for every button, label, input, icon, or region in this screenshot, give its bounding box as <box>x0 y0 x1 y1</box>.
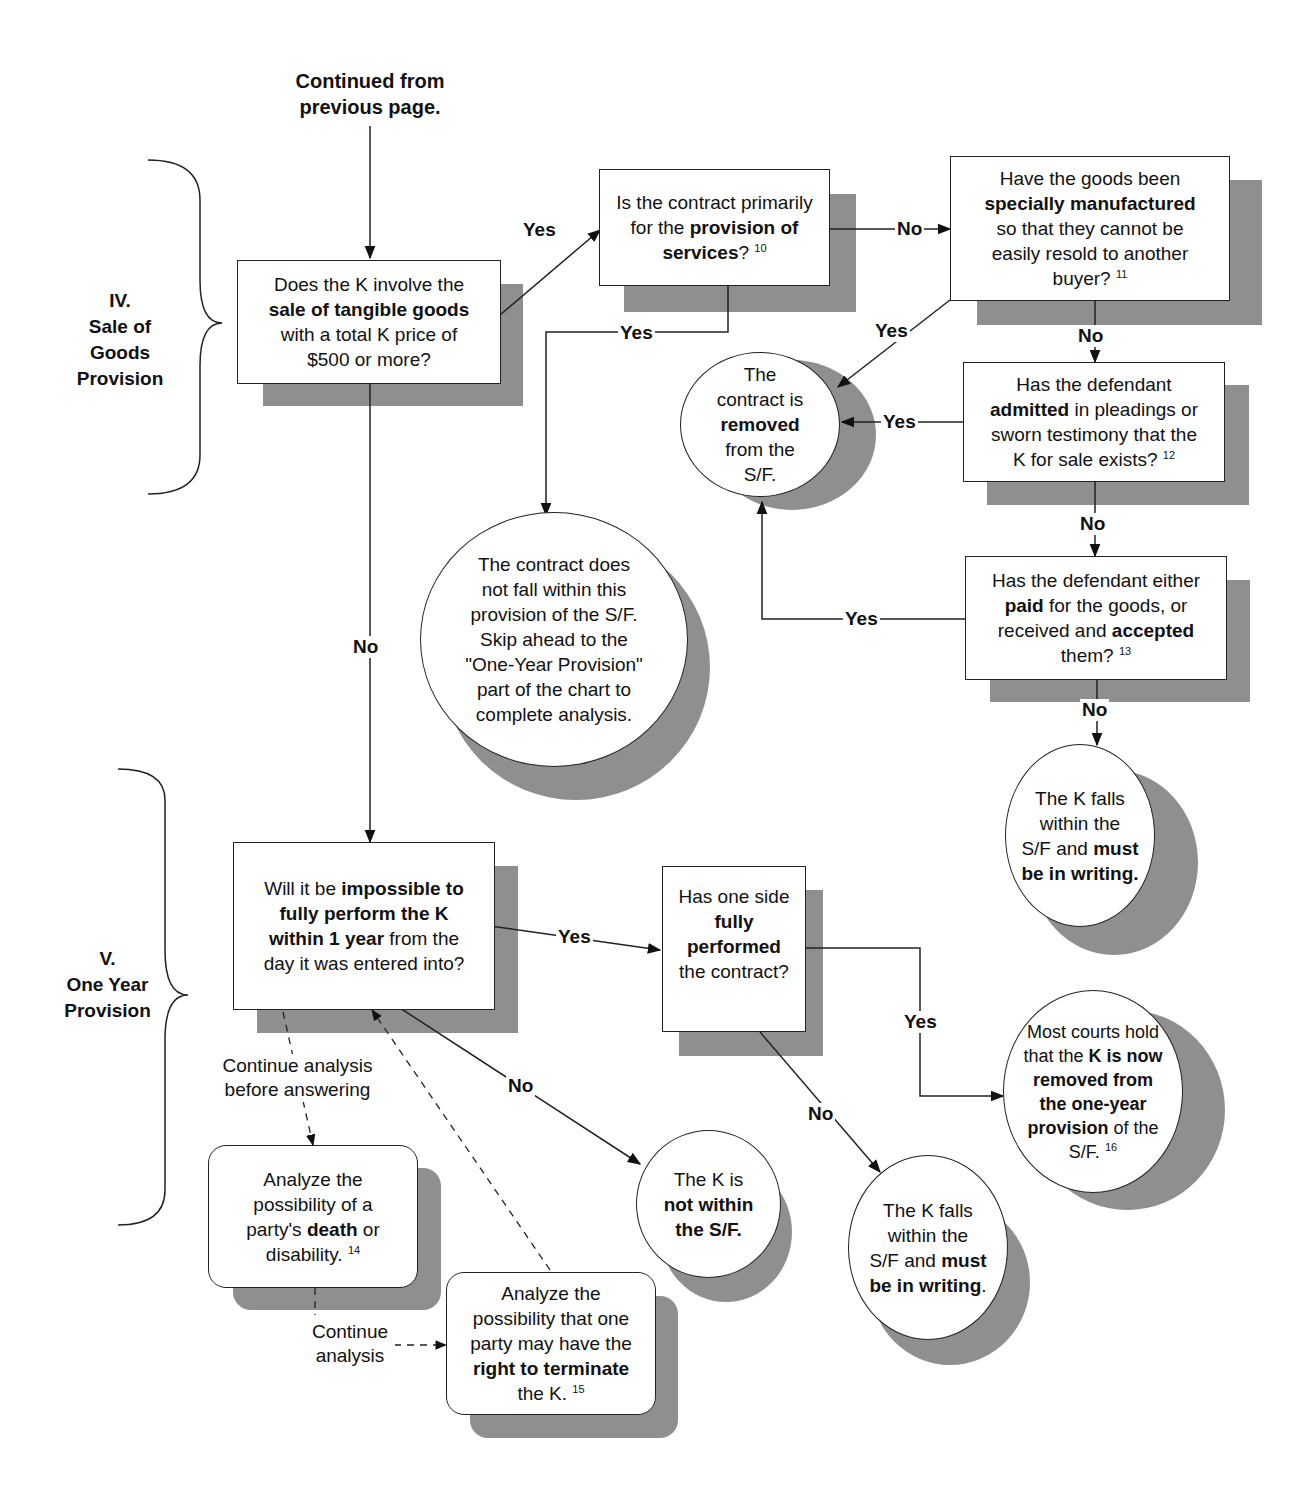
node-provision-of-services-question: Is the contract primarily for the provis… <box>599 169 830 286</box>
node-text: for the goods, or <box>1044 595 1188 616</box>
node-text-bold: fully perform the K <box>280 903 449 924</box>
section-line: One Year <box>40 972 175 998</box>
edge-label-admitted-no: No <box>1078 513 1107 535</box>
footnote-marker: 14 <box>348 1244 360 1256</box>
node-text: The K is <box>674 1169 744 1190</box>
node-text: day it was entered into? <box>264 953 465 974</box>
node-text-bold: paid <box>1005 595 1044 616</box>
node-text: Has the defendant either <box>992 570 1200 591</box>
note-line: Continue analysis <box>210 1054 385 1078</box>
node-text: S/F. <box>744 464 777 485</box>
node-text: received and <box>998 620 1112 641</box>
edge-label-year-no: No <box>506 1075 535 1097</box>
node-text: party may have the <box>470 1333 632 1354</box>
node-text: S/F and <box>869 1250 941 1271</box>
section-v-label: V. One Year Provision <box>40 946 175 1024</box>
edge-label-admitted-yes: Yes <box>881 411 918 433</box>
node-text: S/F and <box>1021 838 1093 859</box>
node-falls-within-sf-goods-outcome: The K falls within the S/F and must be i… <box>1005 744 1155 927</box>
footnote-marker: 12 <box>1163 449 1175 461</box>
node-impossible-within-one-year-question: Will it be impossible to fully perform t… <box>233 842 495 1010</box>
node-text: provision of the S/F. <box>471 604 638 625</box>
node-text-bold: K is now <box>1089 1046 1163 1066</box>
node-text: The K falls <box>883 1200 973 1221</box>
node-text-bold: impossible to <box>341 878 463 899</box>
node-fully-performed-question: Has one side fully performed the contrac… <box>662 866 806 1032</box>
node-specially-manufactured-question: Have the goods been specially manufactur… <box>950 156 1230 301</box>
node-text: of the <box>1108 1118 1158 1138</box>
node-text-bold: the one-year <box>1039 1094 1146 1114</box>
edge-label-goods-yes: Yes <box>521 219 558 241</box>
footnote-marker: 13 <box>1119 645 1131 657</box>
node-text: ? <box>738 242 749 263</box>
node-text: K for sale exists? <box>1013 449 1158 470</box>
node-text: from the <box>384 928 459 949</box>
node-text: within the <box>1040 813 1120 834</box>
node-text: . <box>981 1275 986 1296</box>
node-text-bold: must <box>941 1250 986 1271</box>
node-text: possibility of a <box>253 1194 372 1215</box>
node-text-bold: fully performed <box>687 911 781 957</box>
section-line: Sale of <box>50 314 190 340</box>
section-line: Provision <box>40 998 175 1024</box>
node-text: with a total K price of <box>281 324 457 345</box>
node-text-bold: must <box>1093 838 1138 859</box>
node-text: The K falls <box>1035 788 1125 809</box>
edge-label-year-yes: Yes <box>556 926 593 948</box>
note-continue-analysis-before-answering: Continue analysis before answering <box>210 1054 385 1102</box>
edge-label-performed-no: No <box>806 1103 835 1125</box>
note-line: Continue <box>305 1320 395 1344</box>
node-text: not fall within this <box>482 579 627 600</box>
node-text-bold: admitted <box>990 399 1069 420</box>
edge-label-performed-yes: Yes <box>902 1011 939 1033</box>
continued-line-1: Continued from <box>285 68 455 94</box>
node-text: The <box>744 364 777 385</box>
node-sale-of-goods-question: Does the K involve the sale of tangible … <box>237 260 501 384</box>
footnote-marker: 15 <box>572 1383 584 1395</box>
edge-label-services-yes: Yes <box>618 322 655 344</box>
node-text: the contract? <box>679 961 789 982</box>
node-text: buyer? <box>1053 268 1111 289</box>
node-text-bold: the S/F. <box>675 1219 742 1240</box>
node-text: Analyze the <box>501 1283 600 1304</box>
node-falls-within-sf-year-outcome: The K falls within the S/F and must be i… <box>848 1155 1008 1340</box>
node-text: sworn testimony that the <box>991 424 1197 445</box>
section-line: Provision <box>50 366 190 392</box>
edge-label-paid-yes: Yes <box>843 608 880 630</box>
node-death-or-disability-analysis: Analyze the possibility of a party's dea… <box>208 1145 418 1288</box>
edge-label-manufactured-yes: Yes <box>873 320 910 342</box>
node-text: contract is <box>717 389 804 410</box>
node-text-bold: not within <box>664 1194 754 1215</box>
node-text-bold: removed from <box>1033 1070 1153 1090</box>
node-text: Has one side <box>679 886 790 907</box>
node-text: The contract does <box>478 554 630 575</box>
node-text: party's <box>246 1219 307 1240</box>
node-text: Have the goods been <box>1000 168 1181 189</box>
edge-label-manufactured-no: No <box>1076 325 1105 347</box>
note-line: before answering <box>210 1078 385 1102</box>
node-text: Has the defendant <box>1016 374 1171 395</box>
node-text-bold: right to terminate <box>473 1358 629 1379</box>
node-text: Skip ahead to the <box>480 629 628 650</box>
edge-label-paid-no: No <box>1080 699 1109 721</box>
node-text: so that they cannot be <box>997 218 1184 239</box>
continued-from-previous-page: Continued from previous page. <box>285 68 455 120</box>
node-text: from the <box>725 439 795 460</box>
section-numeral: V. <box>40 946 175 972</box>
node-text-bold: be in writing. <box>1021 863 1138 884</box>
node-not-within-provision-outcome: The contract does not fall within this p… <box>420 512 688 767</box>
node-text-bold: accepted <box>1112 620 1194 641</box>
node-text: that the <box>1023 1046 1088 1066</box>
node-contract-removed-outcome: The contract is removed from the S/F. <box>680 352 840 497</box>
node-text: Will it be <box>264 878 341 899</box>
footnote-marker: 10 <box>754 242 766 254</box>
node-text: Most courts hold <box>1027 1022 1159 1042</box>
section-line: Goods <box>50 340 190 366</box>
node-courts-hold-removed-outcome: Most courts hold that the K is now remov… <box>1003 990 1183 1193</box>
node-not-within-sf-outcome: The K is not within the S/F. <box>636 1130 781 1278</box>
footnote-marker: 16 <box>1105 1141 1117 1153</box>
note-continue-analysis: Continue analysis <box>305 1320 395 1368</box>
node-text: the K. <box>517 1383 567 1404</box>
note-line: analysis <box>305 1344 395 1368</box>
node-text: S/F. <box>1069 1142 1100 1162</box>
